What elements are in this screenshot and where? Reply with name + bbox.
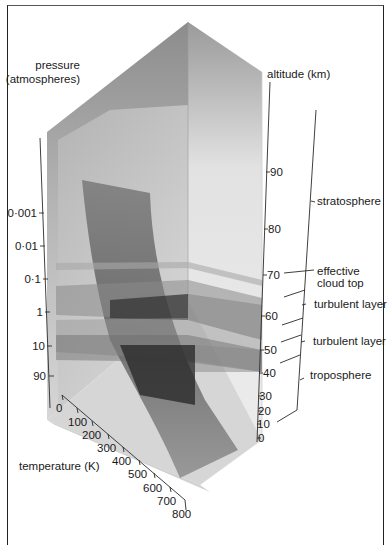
temperature-tick: 800	[172, 508, 191, 520]
temperature-tick: 0	[56, 402, 62, 414]
altitude-tick: 20	[258, 405, 271, 417]
altitude-tick: 80	[268, 223, 281, 235]
altitude-tick: 60	[265, 310, 278, 322]
region-label-turbulent-upper: turbulent layer	[314, 298, 387, 310]
altitude-tick: 70	[267, 269, 280, 281]
altitude-axis: altitude (km) 90 80 70 60 50 40 30 20 10…	[257, 68, 330, 444]
region-label-cloud-top-1: effective	[317, 265, 360, 277]
altitude-axis-title: altitude (km)	[267, 68, 330, 80]
altitude-tick: 90	[270, 166, 283, 178]
altitude-tick: 40	[263, 367, 276, 379]
pressure-tick: 90	[33, 370, 46, 382]
temperature-axis-title: temperature (K)	[19, 460, 100, 472]
pressure-tick: 1	[37, 306, 43, 318]
altitude-tick: 10	[257, 418, 270, 430]
region-label-turbulent-lower: turbulent layer	[313, 335, 386, 347]
temperature-tick: 300	[97, 442, 116, 454]
altitude-tick: 30	[259, 390, 272, 402]
region-label-troposphere: troposphere	[310, 369, 371, 381]
temperature-tick: 100	[68, 416, 87, 428]
pressure-tick: 0·01	[15, 240, 38, 252]
pressure-axis-title-1: pressure	[35, 59, 80, 71]
pressure-tick: 10	[32, 340, 45, 352]
temperature-tick: 700	[157, 495, 176, 507]
altitude-tick: 0	[258, 432, 264, 444]
temperature-tick: 400	[112, 455, 131, 467]
region-label-stratosphere: stratosphere	[317, 195, 381, 207]
temperature-tick: 200	[82, 429, 101, 441]
region-bracket: stratosphere effective cloud top turbule…	[277, 110, 387, 422]
pressure-tick: 0·001	[8, 207, 37, 219]
altitude-tick: 50	[264, 344, 277, 356]
temperature-tick: 500	[128, 468, 147, 480]
temperature-tick: 600	[143, 482, 162, 494]
pressure-tick: 0·1	[24, 273, 41, 285]
pressure-axis-title-2: (atmospheres)	[6, 73, 80, 85]
region-label-cloud-top-2: cloud top	[317, 277, 364, 289]
